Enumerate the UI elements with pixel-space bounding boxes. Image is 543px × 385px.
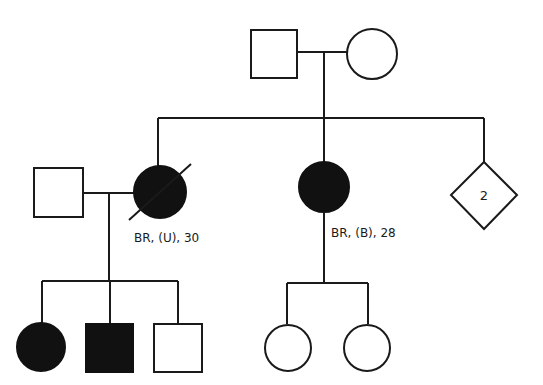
label-ii3: BR, (B), 28 — [331, 226, 396, 240]
diamond-count: 2 — [480, 188, 488, 203]
grandmother-circle — [347, 29, 397, 79]
affected-female-circle — [299, 162, 349, 212]
generation-3-right — [265, 283, 390, 371]
generation-2: BR, (U), 30 BR, (B), 28 2 — [34, 162, 517, 283]
generation-3-left — [17, 281, 202, 372]
label-ii2: BR, (U), 30 — [134, 231, 199, 245]
unaffected-female-circle-iii5 — [344, 325, 390, 371]
unaffected-male-square-iii3 — [154, 324, 202, 372]
pedigree-diagram: BR, (U), 30 BR, (B), 28 2 — [0, 0, 543, 385]
generation-1 — [158, 29, 484, 166]
affected-male-square-iii2 — [86, 324, 133, 372]
affected-female-circle-iii1 — [17, 323, 65, 371]
grandfather-square — [251, 30, 297, 78]
unaffected-female-circle-iii4 — [265, 325, 311, 371]
spouse-square — [34, 168, 83, 217]
